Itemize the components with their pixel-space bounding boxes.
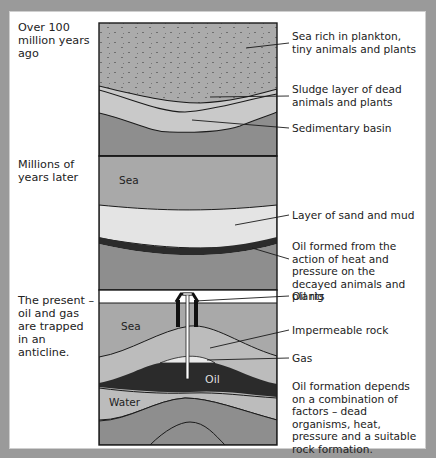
label-water: Water bbox=[109, 396, 141, 408]
callout-plankton: Sea rich in plankton, tiny animals and p… bbox=[292, 30, 422, 55]
label-sea-stage2: Sea bbox=[119, 174, 139, 186]
callout-oil-rig: Oil rig bbox=[292, 290, 422, 303]
panel-anticline-trap bbox=[99, 290, 277, 445]
callout-sand-mud: Layer of sand and mud bbox=[292, 209, 422, 222]
label-sea-stage3: Sea bbox=[121, 320, 141, 332]
panel-ancient-sea bbox=[99, 23, 277, 156]
callout-impermeable-rock: Impermeable rock bbox=[292, 324, 422, 337]
label-oil: Oil bbox=[205, 373, 220, 386]
callout-basin: Sedimentary basin bbox=[292, 122, 422, 135]
callout-sludge: Sludge layer of dead animals and plants bbox=[292, 83, 422, 108]
callout-gas: Gas bbox=[292, 352, 422, 365]
callout-summary: Oil formation depends on a combination o… bbox=[292, 380, 422, 455]
